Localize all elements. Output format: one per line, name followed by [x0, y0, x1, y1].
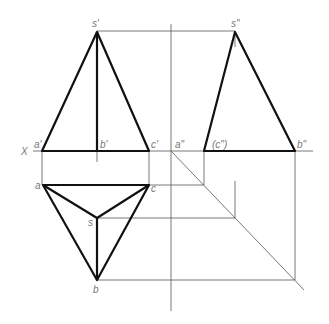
label-c-top: c [151, 183, 156, 194]
miter-diagonal-line [171, 151, 304, 290]
projection-drawing: X s' a' b' c' s" a" (c") b" a c s b [0, 0, 329, 324]
label-b-front: b' [100, 139, 109, 150]
label-c-front: c' [151, 139, 159, 150]
label-b-top: b [93, 284, 99, 295]
side-view [204, 32, 295, 151]
front-view-outline [42, 32, 149, 151]
label-c-side: (c") [212, 139, 227, 150]
construction-lines [33, 24, 313, 311]
label-a-side: a" [175, 139, 185, 150]
label-b-side: b" [297, 139, 307, 150]
label-s-front: s' [92, 18, 100, 29]
x-axis-label: X [20, 146, 28, 157]
front-view [42, 32, 149, 151]
label-a-top: a [35, 180, 41, 191]
top-view [43, 185, 149, 280]
top-view-edge-sa [43, 185, 97, 218]
side-view-outline [204, 32, 295, 151]
label-s-top: s [88, 217, 93, 228]
label-s-side: s" [231, 18, 240, 29]
labels: X s' a' b' c' s" a" (c") b" a c s b [20, 18, 307, 295]
label-a-front: a' [34, 139, 43, 150]
